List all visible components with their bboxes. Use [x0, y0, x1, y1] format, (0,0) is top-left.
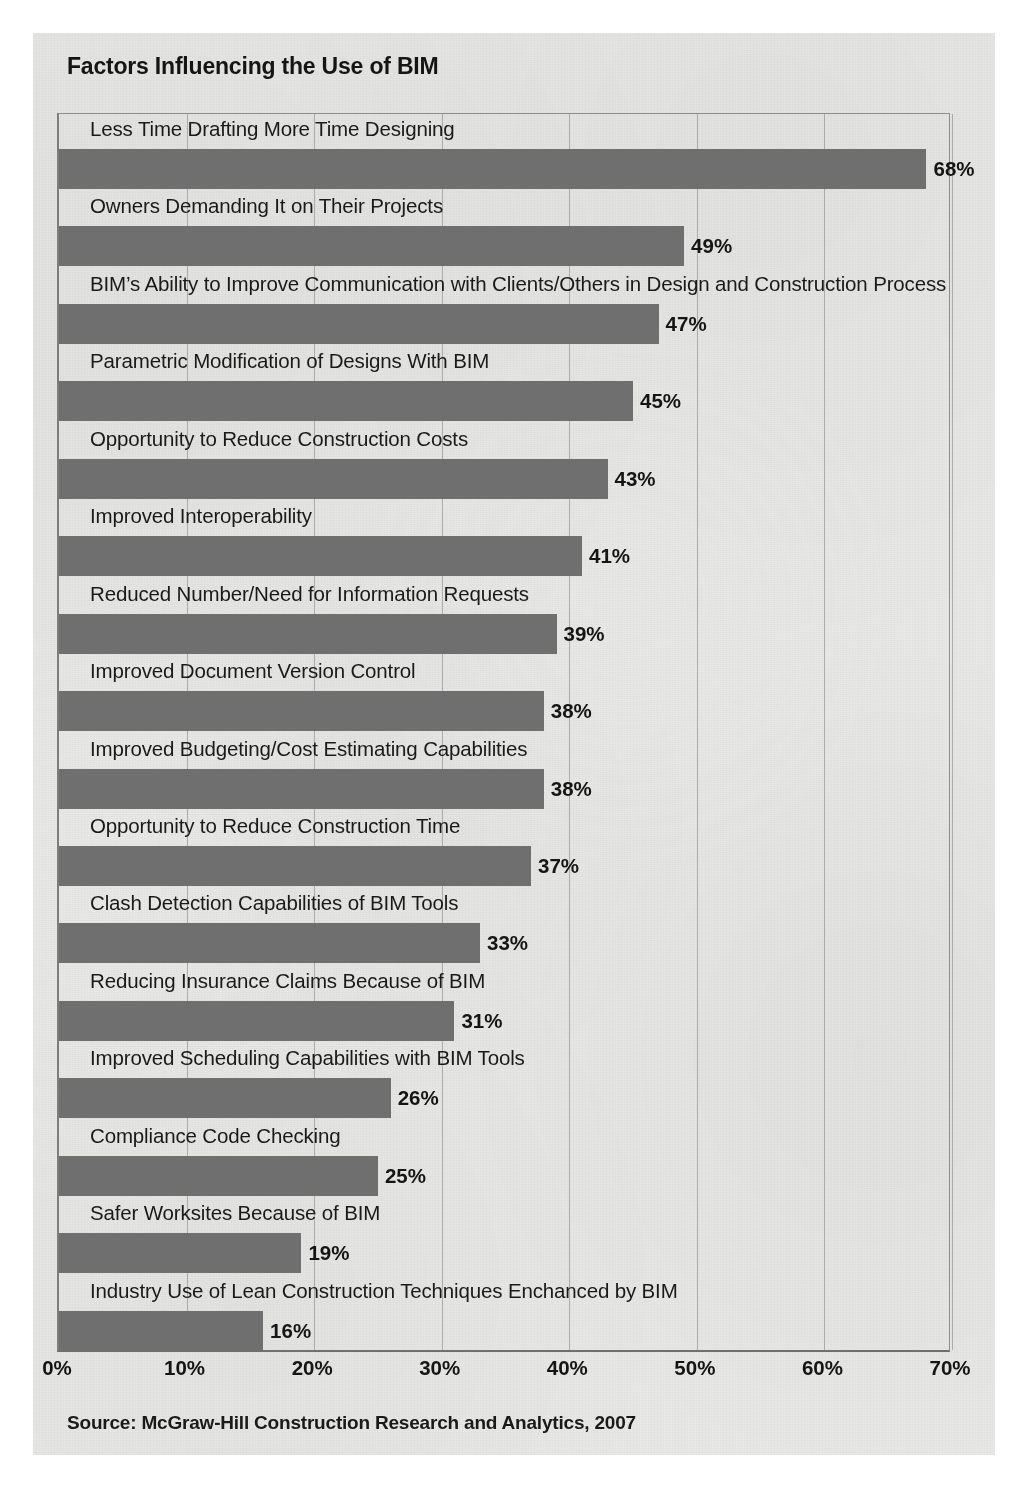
bar-category-label: Less Time Drafting More Time Designing — [90, 117, 455, 141]
bar-fill[interactable] — [59, 381, 633, 421]
bar-row: Opportunity to Reduce Construction Time3… — [59, 811, 949, 888]
bar-value-label: 38% — [544, 699, 592, 723]
bar-value-label: 25% — [378, 1164, 426, 1188]
bar-track: 33% — [59, 923, 949, 963]
bar-fill[interactable] — [59, 1156, 378, 1196]
bar-fill[interactable] — [59, 226, 684, 266]
bar-row: Improved Interoperability41% — [59, 501, 949, 578]
bar-track: 25% — [59, 1156, 949, 1196]
bar-track: 41% — [59, 536, 949, 576]
bar-track: 26% — [59, 1078, 949, 1118]
bar-category-label: Industry Use of Lean Construction Techni… — [90, 1279, 678, 1303]
bar-row: Reducing Insurance Claims Because of BIM… — [59, 966, 949, 1043]
bar-track: 38% — [59, 691, 949, 731]
bar-category-label: Owners Demanding It on Their Projects — [90, 194, 443, 218]
bar-value-label: 68% — [926, 157, 974, 181]
page-title: Factors Influencing the Use of BIM — [67, 53, 438, 80]
source-note: Source: McGraw-Hill Construction Researc… — [67, 1412, 636, 1434]
bar-value-label: 37% — [531, 854, 579, 878]
bar-fill[interactable] — [59, 1233, 301, 1273]
bar-track: 31% — [59, 1001, 949, 1041]
bar-fill[interactable] — [59, 691, 544, 731]
bar-category-label: BIM’s Ability to Improve Communication w… — [90, 272, 946, 296]
bar-fill[interactable] — [59, 1311, 263, 1351]
bar-value-label: 49% — [684, 234, 732, 258]
x-axis-tick-30: 30% — [419, 1356, 460, 1380]
bar-track: 47% — [59, 304, 949, 344]
bar-row: Clash Detection Capabilities of BIM Tool… — [59, 888, 949, 965]
bar-category-label: Improved Budgeting/Cost Estimating Capab… — [90, 737, 527, 761]
x-axis: 0%10%20%30%40%50%60%70% — [57, 1356, 950, 1386]
bar-value-label: 38% — [544, 777, 592, 801]
bar-fill[interactable] — [59, 149, 926, 189]
bar-row: Improved Scheduling Capabilities with BI… — [59, 1043, 949, 1120]
bar-category-label: Opportunity to Reduce Construction Costs — [90, 427, 468, 451]
bar-value-label: 39% — [557, 622, 605, 646]
bar-fill[interactable] — [59, 459, 608, 499]
bar-row: Compliance Code Checking25% — [59, 1121, 949, 1198]
x-axis-tick-0: 0% — [42, 1356, 72, 1380]
x-axis-tick-10: 10% — [164, 1356, 205, 1380]
bar-track: 19% — [59, 1233, 949, 1273]
bar-track: 37% — [59, 846, 949, 886]
bar-value-label: 45% — [633, 389, 681, 413]
chart-plot-area: Less Time Drafting More Time Designing68… — [57, 113, 950, 1352]
bar-category-label: Clash Detection Capabilities of BIM Tool… — [90, 891, 458, 915]
bar-value-label: 31% — [454, 1009, 502, 1033]
bar-row: Parametric Modification of Designs With … — [59, 346, 949, 423]
bar-value-label: 19% — [301, 1241, 349, 1265]
bar-category-label: Reducing Insurance Claims Because of BIM — [90, 969, 485, 993]
x-axis-tick-60: 60% — [802, 1356, 843, 1380]
bar-row: Reduced Number/Need for Information Requ… — [59, 579, 949, 656]
bar-category-label: Improved Interoperability — [90, 504, 312, 528]
bar-category-label: Parametric Modification of Designs With … — [90, 349, 489, 373]
x-axis-tick-20: 20% — [292, 1356, 333, 1380]
bar-row: Opportunity to Reduce Construction Costs… — [59, 424, 949, 501]
bar-row: Improved Budgeting/Cost Estimating Capab… — [59, 734, 949, 811]
bar-category-label: Reduced Number/Need for Information Requ… — [90, 582, 529, 606]
bar-value-label: 33% — [480, 931, 528, 955]
bar-track: 49% — [59, 226, 949, 266]
x-axis-tick-50: 50% — [674, 1356, 715, 1380]
bar-row: Safer Worksites Because of BIM19% — [59, 1198, 949, 1275]
bar-category-label: Improved Scheduling Capabilities with BI… — [90, 1046, 525, 1070]
bar-value-label: 43% — [608, 467, 656, 491]
bar-value-label: 16% — [263, 1319, 311, 1343]
bar-value-label: 41% — [582, 544, 630, 568]
bar-value-label: 26% — [391, 1086, 439, 1110]
bar-fill[interactable] — [59, 846, 531, 886]
bar-track: 38% — [59, 769, 949, 809]
bar-value-label: 47% — [659, 312, 707, 336]
bar-track: 45% — [59, 381, 949, 421]
bar-fill[interactable] — [59, 769, 544, 809]
x-axis-tick-40: 40% — [547, 1356, 588, 1380]
bar-category-label: Compliance Code Checking — [90, 1124, 341, 1148]
bar-category-label: Opportunity to Reduce Construction Time — [90, 814, 460, 838]
bar-fill[interactable] — [59, 614, 557, 654]
bar-track: 43% — [59, 459, 949, 499]
bar-fill[interactable] — [59, 304, 659, 344]
bar-track: 68% — [59, 149, 949, 189]
bar-row: Less Time Drafting More Time Designing68… — [59, 114, 949, 191]
bar-fill[interactable] — [59, 536, 582, 576]
bar-track: 16% — [59, 1311, 949, 1351]
bar-category-label: Improved Document Version Control — [90, 659, 415, 683]
bar-row: Industry Use of Lean Construction Techni… — [59, 1276, 949, 1353]
bar-track: 39% — [59, 614, 949, 654]
bar-fill[interactable] — [59, 1001, 454, 1041]
bar-row: Improved Document Version Control38% — [59, 656, 949, 733]
bar-fill[interactable] — [59, 1078, 391, 1118]
bar-category-label: Safer Worksites Because of BIM — [90, 1201, 380, 1225]
x-axis-tick-70: 70% — [929, 1356, 970, 1380]
bar-row: Owners Demanding It on Their Projects49% — [59, 191, 949, 268]
bar-row: BIM’s Ability to Improve Communication w… — [59, 269, 949, 346]
chart-bars-container: Less Time Drafting More Time Designing68… — [59, 114, 949, 1350]
bar-fill[interactable] — [59, 923, 480, 963]
